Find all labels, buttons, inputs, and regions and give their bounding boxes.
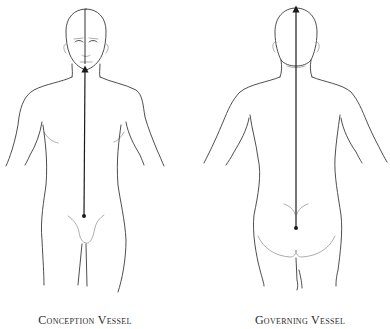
front-nose — [82, 55, 90, 57]
conception-vessel-start-point — [82, 214, 86, 218]
conception-vessel-line — [84, 69, 85, 216]
front-right-eye — [89, 41, 97, 43]
back-buttocks — [258, 236, 335, 257]
front-right-shoulder — [100, 77, 164, 166]
governing-vessel-label: Governing Vessel — [255, 313, 345, 328]
back-right-shoulder — [312, 77, 387, 162]
front-right-ear — [106, 44, 108, 53]
meridian-diagram: Conception Vessel Governing Vessel — [0, 0, 390, 329]
body-illustrations — [0, 0, 390, 329]
back-right-ear — [317, 42, 319, 52]
conception-vessel-label: Conception Vessel — [38, 313, 131, 328]
front-groin — [68, 215, 104, 243]
back-left-ear — [273, 42, 275, 52]
governing-vessel-start-point — [294, 226, 298, 230]
front-left-ear — [64, 44, 66, 53]
front-head-outline — [66, 9, 106, 70]
back-left-shoulder — [204, 77, 280, 163]
front-left-eye — [75, 41, 83, 43]
front-left-shoulder — [6, 77, 72, 166]
